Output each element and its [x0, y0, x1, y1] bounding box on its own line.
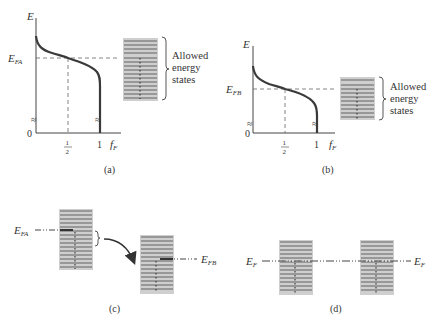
- panel-a: E 0 ≈ ≈ EFA 1 2 1 fF (a): [7, 10, 209, 176]
- axis-break-icon: ≈: [247, 118, 253, 129]
- panel-d: EF EF (d): [245, 240, 426, 315]
- caption-c: (c): [109, 303, 120, 315]
- tick-half-den: 2: [283, 148, 287, 156]
- tick-half-num: 1: [66, 139, 70, 147]
- material-b-states: [360, 240, 394, 295]
- fermi-label-fa: EFA: [13, 224, 29, 238]
- caption-a: (a): [104, 164, 115, 176]
- tick-half-num: 1: [283, 139, 287, 147]
- electron-flow-arrow: [104, 239, 134, 262]
- x-axis-label: fF: [110, 138, 118, 152]
- energy-states-block: [340, 77, 375, 120]
- fermi-label-left: EF: [245, 255, 258, 269]
- fermi-label-right: EF: [413, 255, 426, 269]
- legend-line-2: energy: [172, 62, 201, 73]
- material-b-states: [140, 235, 174, 294]
- fermi-level-diagram: E 0 ≈ ≈ EFA 1 2 1 fF (a): [0, 0, 440, 327]
- origin-label: 0: [245, 128, 250, 139]
- legend-line-1: Allowed: [172, 50, 209, 61]
- fermi-label-b: EFB: [225, 83, 242, 97]
- legend-line-3: states: [390, 105, 413, 116]
- fermi-label-fb: EFB: [200, 253, 217, 267]
- panel-c: EFA EFB: [13, 209, 217, 315]
- legend-line-2: energy: [390, 93, 419, 104]
- caption-b: (b): [322, 164, 334, 176]
- panel-b: E 0 ≈ ≈ EFB 1 2 1 fF (b): [225, 38, 427, 176]
- material-a-states: [59, 209, 93, 270]
- y-axis-label: E: [242, 38, 250, 50]
- y-axis-label: E: [26, 10, 34, 22]
- x-axis-label: fF: [329, 138, 337, 152]
- material-a-states: [279, 240, 313, 295]
- brace-icon: [379, 77, 386, 120]
- axis-break-icon: ≈: [31, 114, 37, 125]
- fermi-dirac-curve: [36, 36, 100, 133]
- energy-states-block: [123, 38, 158, 101]
- tick-one: 1: [97, 139, 102, 150]
- brace-icon: [162, 37, 169, 100]
- origin-label: 0: [27, 128, 32, 139]
- tick-one: 1: [314, 139, 319, 150]
- fermi-label-a: EFA: [7, 52, 23, 66]
- legend-line-1: Allowed: [390, 81, 427, 92]
- legend-line-3: states: [172, 74, 195, 85]
- brace-icon: [95, 231, 100, 246]
- tick-half-den: 2: [66, 148, 70, 156]
- caption-d: (d): [330, 303, 342, 315]
